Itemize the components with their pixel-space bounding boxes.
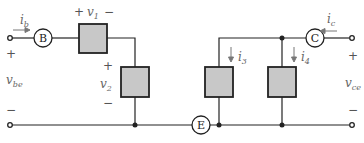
label-i4: i4 [301, 50, 310, 66]
terminal-c [350, 36, 355, 41]
label-i3: i3 [238, 50, 247, 66]
terminal-e-left [8, 123, 13, 128]
vce-minus: − [348, 103, 358, 117]
arrow-icon [229, 57, 234, 62]
label-vce: vce [345, 76, 361, 92]
node-c-label: C [311, 32, 319, 45]
node-e-label: E [197, 119, 205, 132]
v1-minus: − [104, 5, 114, 19]
arrow-icon [292, 57, 297, 62]
terminal-b [8, 36, 13, 41]
junction [280, 123, 285, 128]
label-v1: v1 [87, 5, 99, 21]
junction [133, 123, 138, 128]
label-ic: ic [327, 12, 336, 28]
junction [280, 36, 285, 41]
terminal-e-right [350, 123, 355, 128]
element-1 [79, 24, 107, 53]
vbe-plus: + [6, 47, 16, 61]
vce-plus: + [348, 49, 358, 63]
label-v2: v2 [100, 77, 112, 93]
junction [217, 123, 222, 128]
vbe-minus: − [6, 103, 16, 117]
v2-minus: − [103, 96, 113, 110]
node-b-label: B [39, 32, 47, 45]
element-2 [121, 67, 149, 97]
element-3 [205, 67, 233, 97]
label-ib: ib [20, 13, 29, 29]
wires [12, 38, 349, 125]
circuit-diagram: B E C ib ic + v1 − + v2 − i3 i4 + vbe − … [0, 0, 364, 143]
v1-plus: + [74, 5, 84, 19]
element-4 [268, 67, 296, 97]
v2-plus: + [103, 59, 113, 73]
label-vbe: vbe [6, 73, 23, 89]
